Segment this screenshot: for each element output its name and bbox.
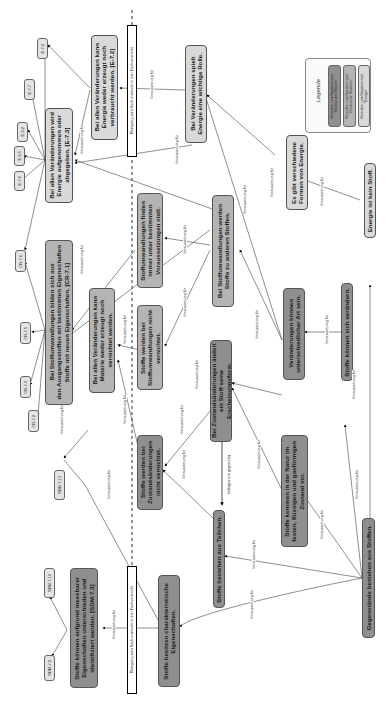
- edge-label: Voraussetzung für: [183, 225, 187, 254]
- transition-marker-top: Übergang vom Sachunterricht in den Fachu…: [127, 25, 137, 157]
- edge-label: Voraussetzung für: [175, 135, 179, 164]
- legend: Legende Kernidee zum Basiskonzept "Struk…: [305, 58, 371, 133]
- code-cr-7-3[interactable]: CR-7.3: [20, 376, 31, 398]
- edge-label: Voraussetzung für: [123, 395, 127, 424]
- edge-label: Voraussetzung für: [320, 177, 324, 206]
- node-stoffe-zustand-nicht-vernichtet[interactable]: Stoffe werden bei Zustandsänderungen nic…: [137, 435, 163, 510]
- node-energie-kein-stoff[interactable]: Energie ist kein Stoff.: [364, 163, 376, 238]
- edge-label: Voraussetzung für: [352, 370, 356, 399]
- edge-label: Voraussetzung für: [250, 590, 254, 619]
- code-cr-7-5[interactable]: CR-7.5: [20, 322, 31, 344]
- legend-item-energie: Kernidee zum Basiskonzept "Energie": [358, 65, 370, 127]
- code-e-9-5[interactable]: E-9.5: [14, 146, 25, 166]
- legend-title: Legende: [315, 79, 321, 102]
- code-sdm-7-4[interactable]: SDM-7.4: [44, 655, 55, 681]
- legend-item-struktur-der-materie: Kernidee zum Basiskonzept "Struktur der …: [328, 65, 341, 127]
- node-stoffumwandlung-andere-stoffe[interactable]: Bei Stoffumwandlungen werden Stoffe zu a…: [212, 195, 234, 307]
- edge-label: Voraussetzung für: [150, 70, 154, 99]
- edge-label: Voraussetzung für: [252, 540, 256, 569]
- node-stoffe-teilchen[interactable]: Stoffe bestehen aus Teilchen.: [213, 510, 225, 608]
- node-stoffumwandlung-neue-eigenschaften[interactable]: Bei Stoffumwandlungen bilden sich aus de…: [45, 240, 73, 405]
- code-e-7-7[interactable]: E-7.7: [24, 79, 35, 100]
- node-materie-nicht-vernichtet[interactable]: Bei allen Veränderungen kann Materie wed…: [89, 288, 115, 393]
- node-energie-aufgenommen-abgegeben[interactable]: Bei allen Veränderungen wird Energie auf…: [45, 108, 73, 203]
- edge-label: Voraussetzung für: [112, 610, 116, 639]
- edge-label: Voraussetzung für: [180, 405, 184, 434]
- edge-label: Voraussetzung für: [320, 510, 324, 539]
- node-zustandsaenderung-erscheinungsform[interactable]: Bei Zustandsänderungen ändert ein Stoff …: [210, 340, 232, 442]
- edge-label: Voraussetzung für: [80, 245, 84, 274]
- mutual-label: bedingen sich gegenseitig: [227, 455, 231, 494]
- code-sdm-7-10[interactable]: SDM-7.10: [44, 568, 55, 598]
- edge-label: Voraussetzung für: [182, 450, 186, 479]
- code-e-7-4[interactable]: E-7.4: [37, 38, 48, 59]
- node-veraenderungen-art[interactable]: Veränderungen können unterschiedlicher A…: [283, 288, 305, 380]
- edge-label: Voraussetzung für: [257, 440, 261, 469]
- transition-label: Übergang vom Sachunterricht in den Fachu…: [130, 47, 134, 134]
- node-energie-nicht-erzeugt[interactable]: Bei allen Veränderungen kann Energie wed…: [91, 35, 118, 140]
- edge-label: Voraussetzung für: [183, 288, 187, 317]
- node-stoffumwandlung-voraussetzungen[interactable]: Stoffumwandlungen finden immer unter bes…: [137, 193, 163, 288]
- code-e-9-2[interactable]: E-9.2: [17, 122, 28, 142]
- node-stoffe-eigenschaften[interactable]: Stoffe besitzen charakteristische Eigens…: [158, 575, 180, 687]
- concept-map-canvas: Übergang vom Sachunterricht in den Fachu…: [0, 0, 392, 711]
- transition-marker-bottom: Übergang vom Sachunterricht in den Fachu…: [127, 566, 137, 694]
- edge-label: Voraussetzung für: [255, 310, 259, 339]
- code-cr-7-6[interactable]: CR-7.6: [15, 250, 26, 272]
- code-cr-7-2[interactable]: CR-7.2: [28, 410, 39, 432]
- edge-label: Voraussetzung für: [123, 315, 127, 344]
- edge-label: Voraussetzung für: [243, 185, 247, 214]
- code-sdm-7-13[interactable]: SDM-7.13: [54, 470, 65, 500]
- node-stoffe-veraendern[interactable]: Stoffe können sich verändern.: [341, 283, 353, 381]
- edge-label: Voraussetzung für: [80, 125, 84, 154]
- edge-label: Voraussetzung für: [270, 168, 274, 197]
- edge-label: Voraussetzung für: [60, 405, 64, 434]
- code-e-7-6[interactable]: E-7.6: [14, 171, 25, 191]
- node-stoffe-natur-zustand[interactable]: Stoffe kommen in der Natur im festen, fl…: [281, 435, 308, 547]
- node-formen-energie[interactable]: Es gibt verschiedene Formen von Energie.: [286, 135, 308, 210]
- node-stoffumwandlung-nicht-vernichtet[interactable]: Stoffe werden bei Stoffumwandlungen nich…: [137, 305, 163, 390]
- edge-label: Voraussetzung für: [355, 470, 359, 499]
- edge-label: Voraussetzung für: [195, 360, 199, 389]
- edge-label: Voraussetzung für: [107, 470, 111, 499]
- transition-label: Übergang vom Sachunterricht in den Fachu…: [130, 586, 134, 673]
- node-stoffe-messbare-eigenschaften[interactable]: Stoffe können aufgrund messbarer Eigensc…: [70, 568, 98, 688]
- node-energie-wichtige-rolle[interactable]: Bei Veränderungen spielt Energie eine wi…: [185, 45, 207, 143]
- node-gegenstaende-stoffe[interactable]: Gegenstände bestehen aus Stoffen.: [362, 518, 375, 638]
- edge-label: Voraussetzung für: [325, 315, 329, 344]
- legend-item-chemische-reaktion: Kernidee zum Basiskonzept "Chemische Rea…: [343, 65, 356, 127]
